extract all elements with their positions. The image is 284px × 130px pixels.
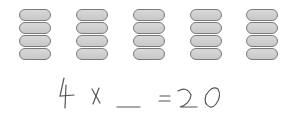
digit-4 [60,78,74,108]
equals-sign [159,96,170,101]
equation-text: 4 × ___ = 20 [0,0,7,1]
handwritten-equation: 4 × ___ = 20 [0,0,284,130]
digit-2 [178,89,197,107]
multiply-sign [92,88,100,104]
digit-0 [205,88,220,107]
